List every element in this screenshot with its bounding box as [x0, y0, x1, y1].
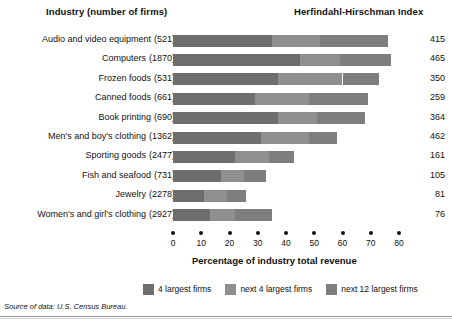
hhi-value: 364 — [409, 112, 445, 122]
row-label-industry: Jewelry — [115, 189, 146, 199]
legend-item[interactable]: next 4 largest firms — [225, 284, 312, 295]
axis-tick — [228, 231, 232, 235]
legend-label: next 12 largest firms — [341, 284, 418, 294]
row-label-firm-count: (661) — [154, 92, 175, 102]
bar-segment-next4 — [255, 93, 309, 105]
row-label: Fish and seafood(731) — [82, 170, 175, 180]
row-label: Jewelry(2278) — [115, 189, 175, 199]
bar-segment-top4 — [173, 132, 261, 144]
bar-segment-next4 — [204, 190, 227, 202]
bar-segment-next12 — [320, 35, 388, 47]
axis-tick-label: 60 — [332, 238, 354, 248]
bar-segment-next12 — [317, 112, 365, 124]
row-label-firm-count: (2278) — [149, 189, 175, 199]
axis-tick-label: 20 — [219, 238, 241, 248]
axis-tick-label: 40 — [275, 238, 297, 248]
row-label-industry: Canned foods — [95, 92, 151, 102]
bar-segment-top4 — [173, 93, 255, 105]
hhi-value: 259 — [409, 92, 445, 102]
bar-segment-next4 — [210, 209, 235, 221]
axis-tick-label: 10 — [190, 238, 212, 248]
axis-tick-label: 0 — [162, 238, 184, 248]
row-label-firm-count: (731) — [154, 170, 175, 180]
row-label: Women's and girl's clothing(2927) — [37, 209, 175, 219]
bar-segment-next12 — [309, 93, 368, 105]
bar-segment-top4 — [173, 112, 278, 124]
row-label-industry: Computers — [102, 53, 146, 63]
legend: 4 largest firmsnext 4 largest firmsnext … — [143, 281, 443, 297]
hhi-value: 462 — [409, 131, 445, 141]
axis-tick-label: 30 — [247, 238, 269, 248]
bar-segment-next12 — [309, 132, 337, 144]
axis-tick-label: 50 — [303, 238, 325, 248]
stacked-bar — [173, 209, 272, 221]
chart-figure: Industry (number of firms) Herfindahl-Hi… — [0, 0, 452, 324]
chart-row: Jewelry(2278)81 — [0, 187, 452, 206]
row-label-industry: Sporting goods — [85, 150, 146, 160]
stacked-bar — [173, 170, 266, 182]
bar-segment-next12 — [244, 170, 267, 182]
legend-label: next 4 largest firms — [240, 284, 312, 294]
bar-segment-top4 — [173, 190, 204, 202]
axis-tick-label: 80 — [388, 238, 410, 248]
axis-tick — [341, 231, 345, 235]
row-label-firm-count: (521) — [154, 34, 175, 44]
row-label: Sporting goods(2477) — [85, 150, 175, 160]
bar-segment-next12 — [343, 73, 380, 85]
row-label: Men's and boy's clothing(1362) — [48, 131, 175, 141]
legend-item[interactable]: 4 largest firms — [143, 284, 211, 295]
stacked-bar — [173, 35, 388, 47]
axis-tick — [171, 231, 175, 235]
x-axis-label: Percentage of industry total revenue — [192, 255, 357, 266]
source-note: Source of data: U.S. Census Bureau. — [4, 302, 127, 311]
column-header-hhi: Herfindahl-Hirschman Index — [294, 6, 423, 17]
hhi-value: 76 — [409, 209, 445, 219]
bar-segment-top4 — [173, 54, 300, 66]
row-label: Computers(1870) — [102, 53, 175, 63]
hhi-value: 465 — [409, 53, 445, 63]
bar-segment-next4 — [278, 73, 343, 85]
legend-swatch — [326, 284, 337, 295]
stacked-bar — [173, 112, 365, 124]
row-label-industry: Frozen foods — [98, 73, 151, 83]
bar-segment-next4 — [278, 112, 318, 124]
legend-swatch — [225, 284, 236, 295]
row-label-firm-count: (1870) — [149, 53, 175, 63]
chart-row: Women's and girl's clothing(2927)76 — [0, 207, 452, 226]
row-label-industry: Men's and boy's clothing — [48, 131, 146, 141]
hhi-value: 415 — [409, 34, 445, 44]
legend-swatch — [143, 284, 154, 295]
axis-tick — [312, 231, 316, 235]
row-label: Canned foods(661) — [95, 92, 175, 102]
bar-segment-next4 — [261, 132, 309, 144]
row-label-firm-count: (1362) — [149, 131, 175, 141]
row-label: Frozen foods(531) — [98, 73, 175, 83]
axis-tick — [369, 231, 373, 235]
axis-tick-label: 70 — [360, 238, 382, 248]
stacked-bar — [173, 93, 368, 105]
legend-label: 4 largest firms — [158, 284, 211, 294]
row-label-firm-count: (2927) — [149, 209, 175, 219]
bar-segment-next12 — [235, 209, 272, 221]
bar-segment-top4 — [173, 73, 278, 85]
axis-tick — [397, 231, 401, 235]
hhi-value: 105 — [409, 170, 445, 180]
row-label-industry: Fish and seafood — [82, 170, 151, 180]
chart-row: Frozen foods(531)350 — [0, 71, 452, 90]
legend-item[interactable]: next 12 largest firms — [326, 284, 418, 295]
x-axis: 01020304050607080 — [0, 231, 452, 253]
footer-rule — [0, 316, 452, 317]
stacked-bar — [173, 54, 391, 66]
chart-row: Canned foods(661)259 — [0, 90, 452, 109]
bar-segment-top4 — [173, 209, 210, 221]
hhi-value: 161 — [409, 150, 445, 160]
bar-segment-next12 — [227, 190, 247, 202]
row-label-industry: Audio and video equipment — [42, 34, 151, 44]
row-label-firm-count: (690) — [154, 112, 175, 122]
chart-row: Book printing(690)364 — [0, 110, 452, 129]
axis-tick — [199, 231, 203, 235]
row-label: Audio and video equipment(521) — [42, 34, 175, 44]
chart-row: Computers(1870)465 — [0, 51, 452, 70]
stacked-bar — [173, 151, 294, 163]
bar-segment-top4 — [173, 170, 221, 182]
